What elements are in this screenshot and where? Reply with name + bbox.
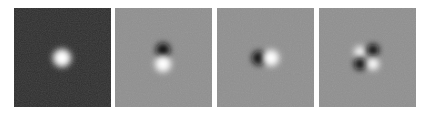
panel-mixed-derivative: [319, 8, 416, 107]
panel-gaussian-blob: [14, 8, 111, 107]
panel-vertical-derivative: [115, 8, 212, 107]
panel-horizontal-derivative: [217, 8, 314, 107]
